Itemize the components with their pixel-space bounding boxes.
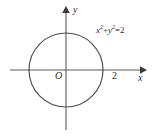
y-axis-arrowhead xyxy=(62,6,70,13)
equation-right-hand-side: 2 xyxy=(120,25,124,35)
coordinate-plane-figure: x y O 2 x2+y2=2 xyxy=(0,0,155,136)
figure-canvas xyxy=(0,0,155,136)
y-axis-label: y xyxy=(73,5,77,15)
origin-label: O xyxy=(55,71,62,81)
circle-equation-label: x2+y2=2 xyxy=(96,26,125,35)
x-axis-tick-label-2: 2 xyxy=(112,71,117,81)
x-axis-label: x xyxy=(138,73,142,83)
